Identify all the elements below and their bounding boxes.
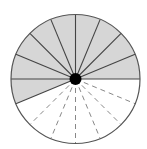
dashed-radius-line [76, 79, 122, 125]
center-dot [70, 73, 82, 85]
fraction-circle-diagram [0, 0, 147, 149]
